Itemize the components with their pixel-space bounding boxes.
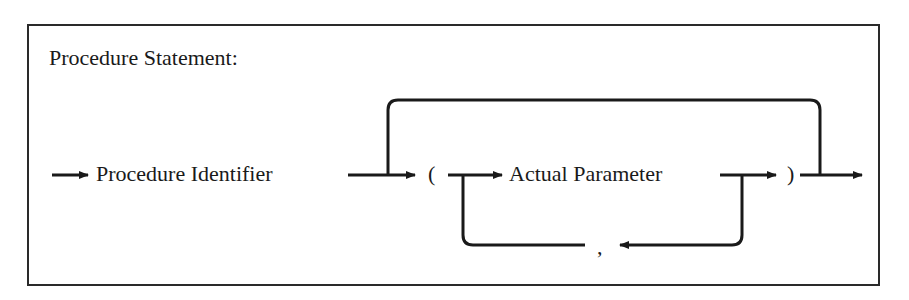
node-lparen: ( [428, 161, 435, 187]
node-rparen: ) [787, 161, 794, 187]
syntax-diagram-lines [0, 0, 909, 300]
node-actual-parameter: Actual Parameter [509, 161, 662, 187]
node-comma: , [597, 234, 603, 260]
node-procedure-identifier: Procedure Identifier [96, 161, 273, 187]
